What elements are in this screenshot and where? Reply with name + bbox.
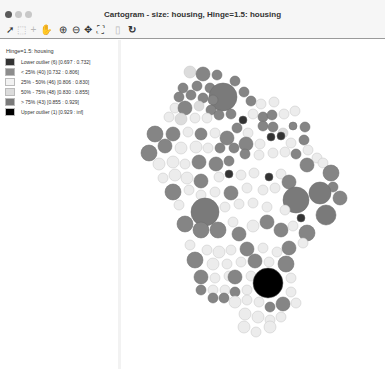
cartogram-circle[interactable] xyxy=(251,327,261,337)
cartogram-canvas[interactable] xyxy=(121,40,385,369)
cartogram-circle[interactable] xyxy=(214,172,224,182)
cartogram-circle[interactable] xyxy=(222,259,232,269)
zoom-in-icon[interactable]: ⊕ xyxy=(57,24,68,35)
cartogram-circle[interactable] xyxy=(256,99,266,109)
cartogram-circle[interactable] xyxy=(181,172,193,184)
cartogram-circle[interactable] xyxy=(278,256,294,272)
cartogram-circle[interactable] xyxy=(210,273,220,283)
cartogram-circle[interactable] xyxy=(184,185,194,195)
cartogram-circle[interactable] xyxy=(268,148,278,158)
cartogram-circle[interactable] xyxy=(243,128,253,138)
cartogram-circle[interactable] xyxy=(240,149,250,159)
cartogram-circle[interactable] xyxy=(240,242,254,256)
cartogram-circle[interactable] xyxy=(298,238,308,248)
cartogram-circle[interactable] xyxy=(254,297,264,307)
cartogram-circle[interactable] xyxy=(228,217,238,227)
cartogram-circle[interactable] xyxy=(286,138,296,148)
cartogram-circle[interactable] xyxy=(253,268,283,298)
cartogram-circle[interactable] xyxy=(297,214,305,222)
cartogram-circle[interactable] xyxy=(291,149,301,159)
cartogram-circle[interactable] xyxy=(267,110,277,120)
cartogram-circle[interactable] xyxy=(210,187,220,197)
cartogram-circle[interactable] xyxy=(242,295,252,305)
cartogram-circle[interactable] xyxy=(265,302,275,312)
cartogram-circle[interactable] xyxy=(269,97,279,107)
cartogram-circle[interactable] xyxy=(219,293,229,303)
cartogram-circle[interactable] xyxy=(258,185,268,195)
cartogram-circle[interactable] xyxy=(207,258,219,270)
cartogram-circle[interactable] xyxy=(191,198,219,226)
cartogram-circle[interactable] xyxy=(147,126,163,142)
cartogram-circle[interactable] xyxy=(209,157,223,171)
cartogram-circle[interactable] xyxy=(164,112,174,122)
cartogram-circle[interactable] xyxy=(196,285,206,295)
cartogram-circle[interactable] xyxy=(234,199,244,209)
cartogram-circle[interactable] xyxy=(286,273,296,283)
cartogram-circle[interactable] xyxy=(202,245,212,255)
cartogram-circle[interactable] xyxy=(203,143,213,153)
cartogram-circle[interactable] xyxy=(272,247,282,257)
cartogram-circle[interactable] xyxy=(300,122,310,132)
cartogram-circle[interactable] xyxy=(239,308,251,320)
cartogram-circle[interactable] xyxy=(303,145,313,155)
cartogram-circle[interactable] xyxy=(141,145,157,161)
cartogram-circle[interactable] xyxy=(187,252,203,268)
cartogram-circle[interactable] xyxy=(282,241,296,255)
cartogram-circle[interactable] xyxy=(165,184,181,200)
cartogram-circle[interactable] xyxy=(212,70,222,80)
cartogram-circle[interactable] xyxy=(226,245,236,255)
cartogram-circle[interactable] xyxy=(232,227,246,241)
cartogram-circle[interactable] xyxy=(210,128,220,138)
cartogram-circle[interactable] xyxy=(230,287,240,297)
cartogram-circle[interactable] xyxy=(291,298,301,308)
copy-icon[interactable]: ▯ xyxy=(112,24,123,35)
cartogram-circle[interactable] xyxy=(276,297,290,311)
cartogram-circle[interactable] xyxy=(224,186,238,200)
cartogram-circle[interactable] xyxy=(228,270,242,284)
crosshair-icon[interactable]: + xyxy=(28,24,39,35)
cartogram-circle[interactable] xyxy=(242,183,252,193)
cartogram-circle[interactable] xyxy=(264,321,276,333)
cartogram-circle[interactable] xyxy=(280,205,290,215)
refresh-icon[interactable]: ↻ xyxy=(126,24,137,35)
cartogram-circle[interactable] xyxy=(229,143,239,153)
cartogram-circle[interactable] xyxy=(270,183,280,193)
cartogram-circle[interactable] xyxy=(175,113,187,125)
cartogram-circle[interactable] xyxy=(239,116,247,124)
cartogram-circle[interactable] xyxy=(184,66,196,78)
fit-extent-icon[interactable]: ⛶ xyxy=(95,24,106,35)
cartogram-circle[interactable] xyxy=(236,170,246,180)
cartogram-circle[interactable] xyxy=(208,293,218,303)
cartogram-circle[interactable] xyxy=(258,121,268,131)
cartogram-circle[interactable] xyxy=(167,156,179,168)
cartogram-circle[interactable] xyxy=(248,254,262,268)
cartogram-circle[interactable] xyxy=(286,287,296,297)
cartogram-circle[interactable] xyxy=(190,141,202,153)
cartogram-circle[interactable] xyxy=(193,222,209,238)
cartogram-circle[interactable] xyxy=(268,122,278,132)
cartogram-circle[interactable] xyxy=(180,159,190,169)
cartogram-circle[interactable] xyxy=(264,257,274,267)
cartogram-circle[interactable] xyxy=(252,311,264,323)
cartogram-circle[interactable] xyxy=(169,169,181,181)
cartogram-circle[interactable] xyxy=(242,285,252,295)
cartogram-circles[interactable] xyxy=(121,40,385,369)
cartogram-circle[interactable] xyxy=(174,200,184,210)
cartogram-circle[interactable] xyxy=(277,132,285,140)
pan-hand-icon[interactable]: ✋ xyxy=(40,24,51,35)
cartogram-circle[interactable] xyxy=(262,202,272,212)
cartogram-circle[interactable] xyxy=(194,174,208,188)
zoom-out-icon[interactable]: ⊖ xyxy=(70,24,81,35)
cartogram-circle[interactable] xyxy=(196,67,210,81)
cartogram-circle[interactable] xyxy=(175,142,187,154)
cartogram-circle[interactable] xyxy=(202,113,212,123)
cartogram-circle[interactable] xyxy=(213,246,225,258)
cartogram-circle[interactable] xyxy=(323,165,339,181)
cartogram-circle[interactable] xyxy=(186,90,196,100)
cartogram-circle[interactable] xyxy=(194,270,208,284)
cartogram-circle[interactable] xyxy=(220,131,234,145)
cartogram-circle[interactable] xyxy=(236,257,246,267)
cartogram-circle[interactable] xyxy=(195,128,207,140)
cartogram-circle[interactable] xyxy=(225,170,233,178)
cartogram-circle[interactable] xyxy=(192,81,202,91)
